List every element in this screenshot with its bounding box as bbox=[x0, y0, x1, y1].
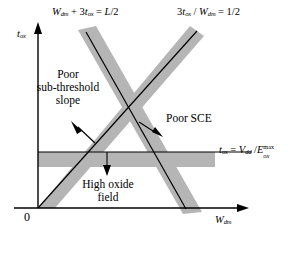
x-axis-label-symbol: W bbox=[215, 214, 224, 225]
annotation-line-1: Poor SCE bbox=[166, 112, 212, 125]
equation-sce: 3tox / Wdm = 1/2 bbox=[177, 6, 240, 18]
y-axis-label-subscript: ox bbox=[20, 32, 26, 39]
equation-subthreshold: Wdm + 3tox = L/2 bbox=[52, 6, 119, 18]
annotation-line-3: slope bbox=[25, 94, 111, 107]
annotation-poor-sub-threshold-slope: Poor sub-threshold slope bbox=[25, 68, 111, 107]
band-horizontal-oxide-field bbox=[38, 152, 215, 167]
equation-oxide-field: tox = Vdd /Emaxox bbox=[219, 144, 263, 156]
figure-container: tox Wdm 0 Wdm + 3tox = L/2 3tox / Wdm = … bbox=[0, 0, 290, 259]
annotation-line-1: High oxide bbox=[62, 178, 154, 191]
x-axis-arrowhead bbox=[237, 204, 249, 212]
origin-label: 0 bbox=[24, 211, 30, 224]
y-axis-arrowhead bbox=[34, 22, 42, 34]
diagram-canvas bbox=[0, 0, 290, 259]
annotation-line-2: field bbox=[62, 191, 154, 204]
annotation-line-2: sub-threshold bbox=[25, 81, 111, 94]
arrow-poor-sub-threshold-slope bbox=[71, 121, 95, 143]
annotation-poor-sce: Poor SCE bbox=[166, 112, 212, 125]
x-axis-label: Wdm bbox=[215, 214, 231, 226]
annotation-line-1: Poor bbox=[25, 68, 111, 81]
x-axis-label-subscript: dm bbox=[224, 218, 232, 225]
annotation-high-oxide-field: High oxide field bbox=[62, 178, 154, 204]
y-axis-label: tox bbox=[17, 28, 26, 40]
